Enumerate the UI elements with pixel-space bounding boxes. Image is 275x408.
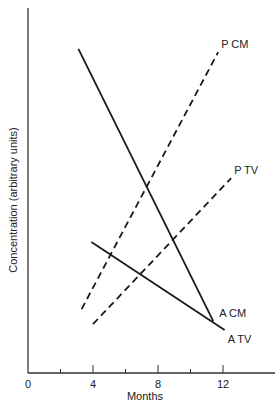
y-axis-label: Concentration (arbitrary units) [7,127,19,273]
series-label-p-cm: P CM [221,38,248,50]
series-a-cm-line [78,49,213,321]
x-tick-label: 4 [90,378,96,390]
series-group [78,49,231,330]
x-tick-label: 12 [217,378,229,390]
series-label-p-tv: P TV [234,164,259,176]
line-chart: 04812 A CMA TVP CMP TV Months Concentrat… [0,0,275,408]
labels-group: A CMA TVP CMP TV [219,38,259,345]
series-p-cm-line [82,52,219,309]
x-tick-label: 8 [155,378,161,390]
series-p-tv-line [93,178,231,324]
series-label-a-tv: A TV [228,333,252,345]
series-label-a-cm: A CM [219,307,246,319]
x-tick-label: 0 [25,378,31,390]
x-axis-label: Months [127,390,164,402]
